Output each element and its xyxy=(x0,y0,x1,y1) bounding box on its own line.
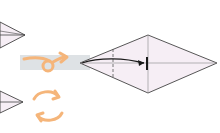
origami-diagram xyxy=(0,0,220,133)
rotate-icon xyxy=(34,91,62,121)
previous-step-top-kite xyxy=(0,22,25,48)
previous-step-bottom-kite xyxy=(0,91,23,113)
current-step-kite xyxy=(80,35,217,93)
